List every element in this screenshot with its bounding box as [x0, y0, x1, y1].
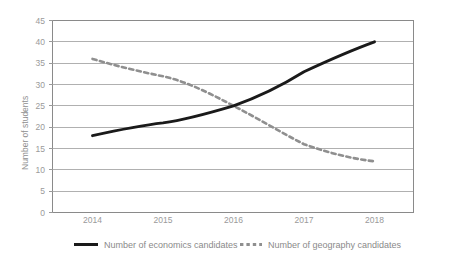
y-tick-label: 25 [36, 101, 46, 111]
legend-label-geography: Number of geography candidates [268, 240, 402, 250]
legend-label-economics: Number of economics candidates [104, 240, 238, 250]
x-tick-label-2017: 2017 [295, 215, 314, 225]
y-tick-label: 0 [40, 208, 45, 218]
line-chart: 45 40 35 30 25 20 15 10 5 0 Number of st… [0, 0, 455, 259]
x-tick-label-2016: 2016 [224, 215, 243, 225]
x-tick-label-2018: 2018 [365, 215, 384, 225]
x-tick-label-2015: 2015 [154, 215, 173, 225]
y-tick-label: 35 [36, 58, 46, 68]
y-tick-label: 30 [36, 80, 46, 90]
y-tick-label: 15 [36, 144, 46, 154]
y-tick-label: 20 [36, 122, 46, 132]
y-tick-label: 40 [36, 37, 46, 47]
y-tick-label: 5 [40, 186, 45, 196]
chart-canvas: 45 40 35 30 25 20 15 10 5 0 Number of st… [0, 0, 455, 259]
y-tick-label: 10 [36, 165, 46, 175]
y-axis-title: Number of students [20, 96, 30, 170]
x-tick-label-2014: 2014 [83, 215, 102, 225]
y-tick-label: 45 [36, 16, 46, 26]
